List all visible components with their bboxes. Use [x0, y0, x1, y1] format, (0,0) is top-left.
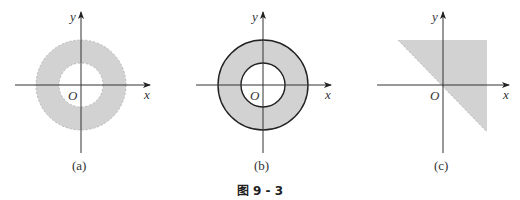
x-axis-label-b: x — [324, 87, 331, 102]
panel-a: y x O (a) — [15, 9, 150, 173]
sublabel-a: (a) — [72, 158, 86, 173]
x-axis-label-a: x — [143, 87, 150, 102]
panel-b: y x O (b) — [196, 9, 331, 173]
panel-c: y x O (c) — [377, 9, 509, 173]
x-axis-label-c: x — [502, 87, 509, 102]
y-axis-label-b: y — [250, 9, 258, 24]
figure-9-3: y x O (a) y x O (b) y x O (c) — [0, 0, 520, 200]
sublabel-c: (c) — [434, 158, 448, 173]
y-axis-label-c: y — [430, 9, 438, 24]
y-axis-label-a: y — [68, 9, 76, 24]
figure-caption: 图 9 - 3 — [0, 181, 520, 198]
origin-label-a: O — [68, 88, 78, 103]
sublabel-b: (b) — [254, 158, 269, 173]
origin-label-c: O — [430, 88, 440, 103]
origin-label-b: O — [250, 88, 260, 103]
